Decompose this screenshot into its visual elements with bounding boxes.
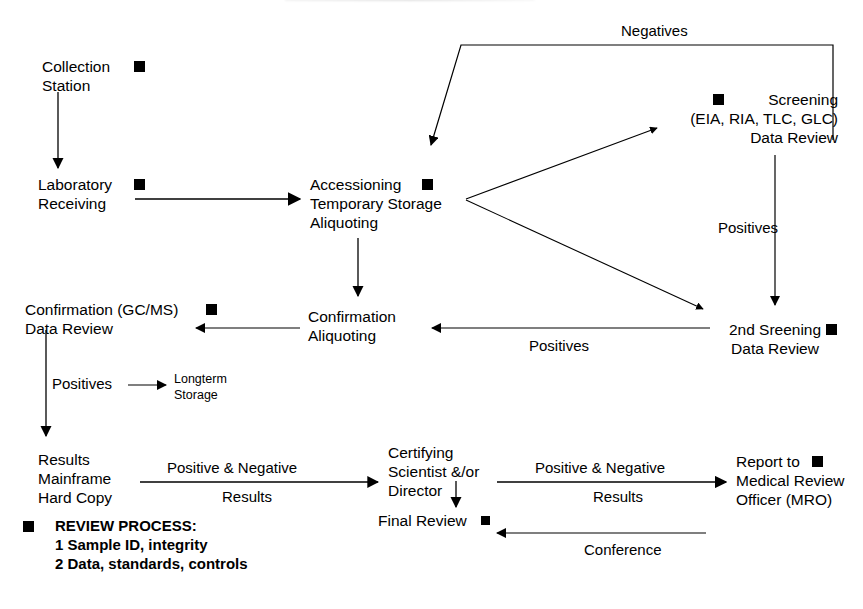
- edge-label-results-bottom-1: Positive & Negative: [535, 459, 665, 477]
- node-confirmation-aliquoting[interactable]: Confirmation Aliquoting: [308, 307, 396, 345]
- confirmation-gcms-marker: [206, 304, 217, 315]
- laboratory-receiving-marker: [134, 179, 145, 190]
- edge-label-results-top-1: Positive & Negative: [167, 459, 297, 477]
- node-second-screening[interactable]: 2nd Sreening Data Review: [712, 320, 838, 358]
- edge-label-negatives: Negatives: [621, 22, 688, 40]
- final-review-marker: [481, 516, 490, 525]
- node-results-mainframe[interactable]: Results Mainframe Hard Copy: [38, 450, 112, 507]
- edge-label-conference: Conference: [584, 541, 662, 559]
- edge-label-positives-screening: Positives: [718, 219, 778, 237]
- legend-title: REVIEW PROCESS:: [55, 516, 197, 535]
- edge-accessioning-to-second-screening: [466, 200, 703, 309]
- legend-item-2: 2 Data, standards, controls: [55, 554, 248, 573]
- legend-marker: [23, 521, 34, 532]
- flowchart-canvas: Collection Station Laboratory Receiving …: [0, 0, 863, 609]
- node-certifying-scientist[interactable]: Certifying Scientist &/or Director: [388, 443, 479, 500]
- edge-accessioning-to-screening: [466, 128, 657, 199]
- node-collection-station[interactable]: Collection Station: [42, 57, 110, 95]
- collection-station-marker: [134, 61, 145, 72]
- node-screening[interactable]: Screening (EIA, RIA, TLC, GLC) Data Revi…: [668, 90, 838, 147]
- edge-label-results-bottom-2: Results: [593, 488, 643, 506]
- second-screening-marker: [826, 324, 837, 335]
- node-longterm-storage[interactable]: Longterm Storage: [174, 371, 227, 403]
- report-mro-marker: [812, 456, 823, 467]
- node-report-mro[interactable]: Report to Medical Review Officer (MRO): [736, 452, 845, 509]
- node-final-review[interactable]: Final Review: [378, 511, 467, 530]
- edge-label-positives-second-screening: Positives: [529, 337, 589, 355]
- screening-marker: [713, 94, 724, 105]
- edge-label-positives-confirmation: Positives: [52, 375, 112, 393]
- accessioning-marker: [422, 179, 433, 190]
- edge-label-results-top-2: Results: [222, 488, 272, 506]
- scan-artifact: [285, 0, 535, 1]
- node-confirmation-gcms[interactable]: Confirmation (GC/MS) Data Review: [25, 300, 178, 338]
- node-laboratory-receiving[interactable]: Laboratory Receiving: [38, 175, 112, 213]
- legend-item-1: 1 Sample ID, integrity: [55, 535, 208, 554]
